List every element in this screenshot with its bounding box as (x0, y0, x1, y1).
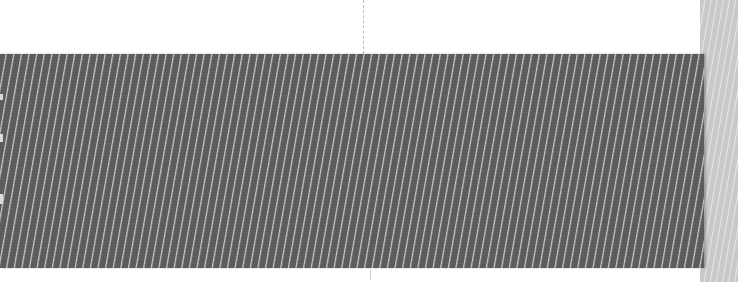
dashed-guide-line-top (363, 0, 364, 54)
photo-scene: Close-up photo of a dark grey woven fabr… (0, 0, 738, 282)
light-grey-fabric-strip (700, 0, 738, 282)
dark-grey-woven-ribbon (0, 54, 704, 268)
ribbon-edge-marks (0, 54, 3, 268)
dashed-guide-line-bottom (370, 270, 371, 280)
